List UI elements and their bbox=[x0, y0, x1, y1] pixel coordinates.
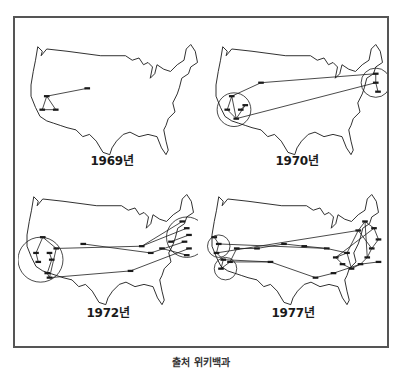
us-network-map bbox=[203, 190, 383, 308]
us-network-map bbox=[207, 40, 387, 158]
map-panel-1972: 1972년 bbox=[18, 190, 198, 335]
us-network-map bbox=[18, 190, 198, 308]
year-label: 1970년 bbox=[207, 151, 387, 168]
us-network-map bbox=[22, 40, 202, 158]
year-label: 1969년 bbox=[22, 151, 202, 168]
year-label: 1972년 bbox=[18, 303, 198, 320]
map-panel-1969: 1969년 bbox=[22, 40, 202, 185]
year-label: 1977년 bbox=[203, 303, 383, 320]
map-panel-1970: 1970년 bbox=[207, 40, 387, 185]
figure-caption: 출처 위키백과 bbox=[0, 354, 402, 369]
map-panel-1977: 1977년 bbox=[203, 190, 383, 335]
